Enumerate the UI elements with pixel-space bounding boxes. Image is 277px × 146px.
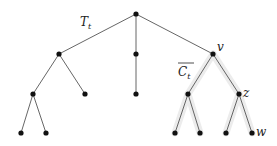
tree-node-w (249, 130, 254, 135)
tree-edge (21, 94, 33, 133)
tree-edge (175, 94, 188, 133)
node-label-z: z (242, 86, 250, 100)
tree-edge (226, 94, 239, 133)
tree-node-a (56, 51, 61, 56)
tree-node-z (236, 91, 241, 96)
tree-node-a1 (30, 91, 35, 96)
tree-edge (136, 14, 213, 54)
tree-edge (213, 54, 239, 94)
tree-node-v1 (185, 91, 190, 96)
tree-edge (188, 94, 200, 133)
tree-node-a12 (43, 130, 48, 135)
svg-text:Ct: Ct (178, 65, 191, 81)
tree-edge (33, 54, 59, 94)
tree-node-a11 (18, 130, 23, 135)
tree-edge (59, 54, 85, 94)
tree-nodes (18, 11, 254, 135)
tree-node-root (133, 11, 138, 16)
tree-diagram: Tt Ct v z w (0, 0, 277, 146)
tree-node-b1 (133, 91, 138, 96)
tree-node-v11 (172, 130, 177, 135)
node-label-v: v (217, 40, 224, 54)
tree-node-v12 (197, 130, 202, 135)
tree-node-v (210, 51, 215, 56)
tree-edge (188, 54, 213, 94)
node-label-w: w (256, 125, 267, 139)
tree-node-b (133, 51, 138, 56)
component-label: Ct (178, 63, 194, 81)
tree-node-z1 (223, 130, 228, 135)
tree-node-a2 (82, 91, 87, 96)
tree-edges (21, 14, 252, 133)
tree-edge (33, 94, 46, 133)
tree-label: Tt (80, 15, 92, 31)
tree-edge (59, 14, 136, 54)
